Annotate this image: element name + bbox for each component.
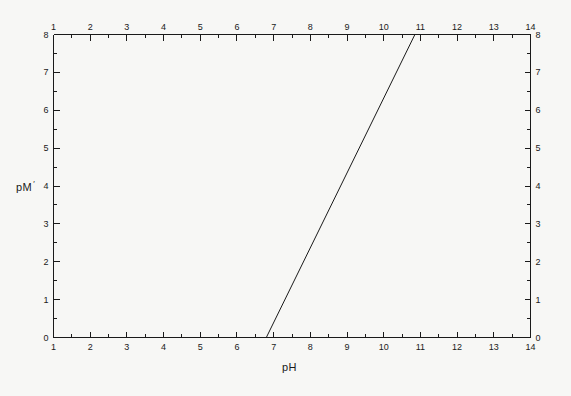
plot-area	[0, 0, 571, 396]
axis-ticks	[54, 35, 531, 338]
y-axis-title-prime: ′	[33, 179, 35, 188]
y-tick-label-right: 8	[536, 30, 541, 40]
y-tick-label-left: 4	[43, 181, 48, 191]
x-tick-label-bottom: 13	[489, 342, 499, 352]
x-tick-label-top: 11	[416, 22, 425, 32]
x-tick-label-bottom: 9	[345, 342, 350, 352]
y-tick-label-right: 1	[536, 295, 541, 305]
x-tick-label-bottom: 14	[525, 342, 535, 352]
x-tick-label-bottom: 4	[161, 342, 166, 352]
x-tick-label-top: 2	[88, 22, 93, 32]
y-tick-label-left: 0	[43, 333, 48, 343]
y-tick-label-left: 3	[43, 219, 48, 229]
x-tick-label-top: 1	[51, 22, 56, 32]
y-tick-label-right: 5	[536, 143, 541, 153]
x-tick-label-top: 12	[452, 22, 462, 32]
y-axis-title: pM′	[16, 179, 35, 193]
y-tick-label-right: 3	[536, 219, 541, 229]
y-axis-title-text: pM	[16, 181, 32, 193]
x-tick-label-bottom: 8	[308, 342, 313, 352]
y-tick-label-left: 5	[43, 143, 48, 153]
y-tick-label-right: 4	[536, 181, 541, 191]
data-series-layer	[266, 35, 415, 338]
x-tick-label-bottom: 12	[452, 342, 462, 352]
x-tick-label-bottom: 11	[416, 342, 425, 352]
x-tick-label-top: 14	[525, 22, 535, 32]
x-tick-label-top: 3	[124, 22, 129, 32]
y-tick-label-left: 1	[43, 295, 48, 305]
x-tick-label-bottom: 1	[51, 342, 56, 352]
x-tick-label-top: 7	[271, 22, 276, 32]
x-tick-label-bottom: 10	[379, 342, 389, 352]
y-tick-label-right: 2	[536, 257, 541, 267]
axis-frame	[54, 35, 531, 338]
y-tick-label-left: 7	[43, 67, 48, 77]
y-tick-label-left: 8	[43, 30, 48, 40]
y-tick-label-right: 0	[536, 333, 541, 343]
x-tick-label-bottom: 2	[88, 342, 93, 352]
y-tick-label-right: 6	[536, 105, 541, 115]
y-tick-label-left: 2	[43, 257, 48, 267]
x-tick-label-bottom: 3	[124, 342, 129, 352]
x-tick-label-top: 5	[198, 22, 203, 32]
x-tick-label-bottom: 7	[271, 342, 276, 352]
x-tick-label-top: 6	[234, 22, 239, 32]
x-tick-label-top: 8	[308, 22, 313, 32]
x-axis-title: pH	[282, 361, 297, 373]
x-tick-label-bottom: 6	[234, 342, 239, 352]
y-tick-label-left: 6	[43, 105, 48, 115]
x-tick-label-top: 9	[345, 22, 350, 32]
y-tick-label-right: 7	[536, 67, 541, 77]
x-tick-label-top: 10	[379, 22, 389, 32]
x-tick-label-top: 13	[489, 22, 499, 32]
data-line	[266, 35, 415, 338]
chart-figure: pM′ pH 112233445566778899101011111212131…	[0, 0, 571, 396]
x-tick-label-bottom: 5	[198, 342, 203, 352]
x-tick-label-top: 4	[161, 22, 166, 32]
